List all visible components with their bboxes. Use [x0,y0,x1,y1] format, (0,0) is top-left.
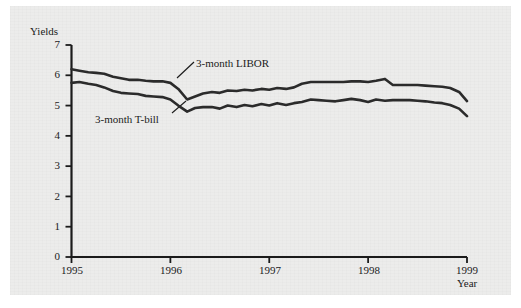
chart-plot-area [0,0,521,308]
data-line-3-month-libor [72,69,468,101]
leader-line-libor [177,62,194,78]
axis-lines [70,45,467,258]
chart-figure: Yields Year 7 6 5 4 3 2 1 0 1995 1996 19… [0,0,521,308]
data-series-group [72,69,468,116]
data-line-3-month-t-bill [72,82,468,116]
